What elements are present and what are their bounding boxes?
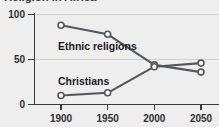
x-tick-label-1950: 1950 — [97, 113, 120, 124]
data-point-marker — [58, 22, 64, 28]
x-tick-label-2000: 2000 — [143, 113, 166, 124]
y-tick-label-0: 0 — [19, 99, 25, 110]
series-layer — [58, 22, 204, 98]
x-tick-label-2050: 2050 — [190, 113, 213, 124]
data-point-marker — [58, 93, 64, 99]
data-point-marker — [198, 60, 204, 66]
series-label-ethnic-religions: Ethnic religions — [58, 40, 137, 52]
data-point-marker — [198, 69, 204, 75]
data-point-marker — [151, 64, 157, 70]
data-point-marker — [105, 31, 111, 37]
series-label-christians: Christians — [58, 75, 110, 87]
line-chart-plot: 100 50 0 1900 1950 2000 2050 Ethnic reli… — [0, 0, 219, 127]
x-tick-label-1900: 1900 — [50, 113, 73, 124]
data-point-marker — [105, 90, 111, 96]
chart-figure: Religion in Africa 100 50 0 1900 1950 20… — [0, 0, 219, 127]
y-tick-label-50: 50 — [14, 54, 26, 65]
y-tick-label-100: 100 — [8, 9, 25, 20]
